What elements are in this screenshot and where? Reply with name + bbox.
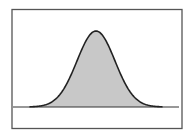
bell-curve-chart (0, 0, 190, 134)
